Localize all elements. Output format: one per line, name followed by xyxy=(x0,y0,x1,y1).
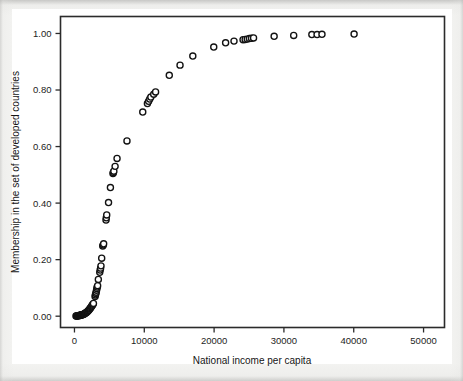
data-point xyxy=(112,163,118,169)
data-point-group xyxy=(73,31,357,319)
data-point xyxy=(107,185,113,191)
data-point xyxy=(251,35,257,41)
data-point xyxy=(271,33,277,39)
data-point xyxy=(211,44,217,50)
data-point xyxy=(95,283,101,289)
x-axis-ticks: 01000020000300004000050000 xyxy=(72,328,437,347)
data-point xyxy=(351,31,357,37)
data-point xyxy=(95,276,101,282)
y-tick-label: 0.60 xyxy=(33,141,52,152)
data-point xyxy=(153,89,159,95)
y-axis-ticks: 0.000.200.400.600.801.00 xyxy=(33,28,61,322)
data-point xyxy=(99,255,105,261)
y-tick-label: 1.00 xyxy=(33,28,52,39)
y-axis-title: Membership in the set of developed count… xyxy=(10,71,21,273)
data-point xyxy=(190,53,196,59)
plot-frame xyxy=(61,17,445,328)
data-point xyxy=(104,212,110,218)
data-point xyxy=(124,138,130,144)
data-point xyxy=(114,155,120,161)
y-tick-label: 0.40 xyxy=(33,198,52,209)
data-point xyxy=(166,72,172,78)
x-tick-label: 50000 xyxy=(410,335,436,346)
figure-container: 0.000.200.400.600.801.00 010000200003000… xyxy=(0,0,463,381)
data-point xyxy=(223,40,229,46)
x-tick-label: 0 xyxy=(72,335,77,346)
x-tick-label: 20000 xyxy=(201,335,227,346)
data-point xyxy=(101,241,107,247)
x-tick-label: 10000 xyxy=(131,335,157,346)
data-point xyxy=(98,263,104,269)
scatter-plot: 0.000.200.400.600.801.00 010000200003000… xyxy=(0,0,463,381)
data-point xyxy=(231,38,237,44)
x-axis-title: National income per capita xyxy=(193,355,312,366)
x-tick-label: 30000 xyxy=(271,335,297,346)
y-tick-label: 0.00 xyxy=(33,311,52,322)
data-point xyxy=(291,32,297,38)
data-point xyxy=(319,31,325,37)
data-point xyxy=(140,109,146,115)
data-point xyxy=(177,62,183,68)
x-tick-label: 40000 xyxy=(341,335,367,346)
y-tick-label: 0.20 xyxy=(33,254,52,265)
data-point xyxy=(90,300,96,306)
data-point xyxy=(105,199,111,205)
y-tick-label: 0.80 xyxy=(33,84,52,95)
